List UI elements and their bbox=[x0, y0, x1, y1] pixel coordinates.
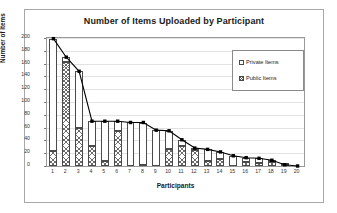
x-axis-label: Participants bbox=[46, 182, 305, 189]
y-axis-tick-label: 20 bbox=[4, 149, 30, 154]
total-line-marker bbox=[180, 138, 183, 141]
total-line-marker bbox=[65, 56, 68, 59]
y-axis-tick-mark bbox=[44, 76, 46, 77]
total-line-marker bbox=[257, 157, 260, 160]
total-line-marker bbox=[116, 120, 119, 123]
y-axis-tick-label: 80 bbox=[4, 111, 30, 116]
total-line-marker bbox=[167, 129, 170, 132]
total-line-marker bbox=[270, 159, 273, 162]
y-axis-tick-label: 140 bbox=[4, 72, 30, 77]
page-title: Number of Items Uploaded by Participant bbox=[24, 16, 324, 26]
total-line-marker bbox=[193, 146, 196, 149]
y-axis-tick-mark bbox=[44, 140, 46, 141]
y-axis-tick-mark bbox=[44, 153, 46, 154]
total-line-marker bbox=[219, 150, 222, 153]
public-swatch-icon bbox=[239, 76, 244, 81]
total-line-marker bbox=[232, 154, 235, 157]
y-axis-tick-label: 100 bbox=[4, 98, 30, 103]
total-line-marker bbox=[77, 70, 80, 73]
legend-item-private: Private Items bbox=[239, 59, 279, 65]
total-line-marker bbox=[52, 37, 55, 40]
y-axis-tick-label: 180 bbox=[4, 47, 30, 52]
y-axis-tick-mark bbox=[44, 51, 46, 52]
total-line-marker bbox=[155, 128, 158, 131]
y-axis-tick-label: 0 bbox=[4, 162, 30, 167]
y-axis-tick-mark bbox=[44, 128, 46, 129]
total-line-marker bbox=[283, 163, 286, 166]
y-axis-tick-label: 40 bbox=[4, 136, 30, 141]
legend-item-public: Public Items bbox=[239, 75, 276, 81]
y-axis-tick-mark bbox=[44, 115, 46, 116]
y-axis-tick-mark bbox=[44, 166, 46, 167]
y-axis-tick-label: 120 bbox=[4, 85, 30, 90]
total-line-marker bbox=[244, 156, 247, 159]
y-axis-tick-label: 160 bbox=[4, 60, 30, 65]
total-line-marker bbox=[90, 120, 93, 123]
y-axis-tick-mark bbox=[44, 89, 46, 90]
x-axis-tick-label: 20 bbox=[290, 169, 304, 174]
y-axis-tick-mark bbox=[44, 102, 46, 103]
total-line-marker bbox=[206, 148, 209, 151]
chart-legend: Private Items Public Items bbox=[232, 50, 304, 91]
total-line-marker bbox=[103, 120, 106, 123]
y-axis-tick-mark bbox=[44, 64, 46, 65]
total-line-marker bbox=[129, 121, 132, 124]
legend-label-public: Public Items bbox=[246, 75, 276, 81]
private-swatch-icon bbox=[239, 60, 244, 65]
legend-label-private: Private Items bbox=[246, 59, 279, 65]
y-axis-tick-label: 200 bbox=[4, 34, 30, 39]
total-line-marker bbox=[142, 121, 145, 124]
y-axis-tick-label: 60 bbox=[4, 124, 30, 129]
y-axis-tick-mark bbox=[44, 38, 46, 39]
chart-figure: Number of Items Uploaded by Participant … bbox=[0, 0, 337, 213]
